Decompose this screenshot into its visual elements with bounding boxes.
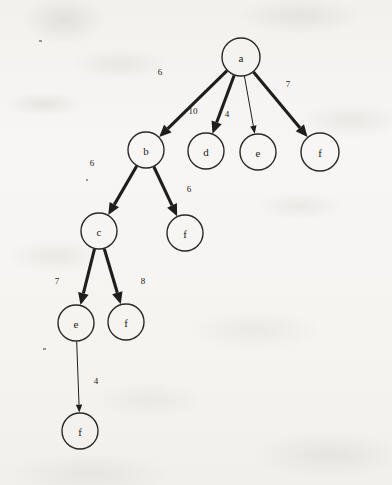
edge-e-to-f xyxy=(76,341,82,412)
edge-b-to-f xyxy=(154,167,177,217)
node-f[interactable]: f xyxy=(62,413,98,449)
edge-weight-c-e: 7 xyxy=(55,276,60,286)
scan-speck xyxy=(39,40,42,42)
weight-labels-layer: 6104766784 xyxy=(55,67,291,386)
edge-weight-a-f: 7 xyxy=(286,79,291,89)
node-e[interactable]: e xyxy=(240,134,276,170)
node-f[interactable]: f xyxy=(108,304,144,340)
arrowhead-icon xyxy=(78,292,88,305)
node-label: f xyxy=(318,147,322,159)
edge-a-to-f xyxy=(253,72,307,137)
node-label: f xyxy=(183,228,187,240)
edges-layer xyxy=(76,71,308,413)
edge-b-to-c xyxy=(108,166,136,215)
scan-speck xyxy=(86,179,88,181)
edge-weight-e-f: 4 xyxy=(94,376,99,386)
arrowhead-icon xyxy=(112,291,122,304)
node-label: c xyxy=(97,226,102,238)
edge-weight-c-f: 8 xyxy=(141,276,146,286)
node-a[interactable]: a xyxy=(222,38,260,76)
edge-c-to-e xyxy=(78,249,94,305)
node-d[interactable]: d xyxy=(188,133,224,169)
node-f[interactable]: f xyxy=(167,215,203,251)
edge-weight-b-f: 6 xyxy=(187,184,192,194)
edge-weight-a-b: 6 xyxy=(158,67,163,77)
node-label: e xyxy=(74,318,79,330)
node-label: a xyxy=(239,52,244,64)
node-f[interactable]: f xyxy=(301,133,339,171)
edge-weight-a-e: 4 xyxy=(225,109,230,119)
diagram-page: abdefcfeff 6104766784 xyxy=(0,0,392,485)
node-label: b xyxy=(143,145,149,157)
node-label: e xyxy=(256,147,261,159)
node-label: f xyxy=(78,426,82,438)
scan-speck xyxy=(43,348,46,350)
edge-c-to-f xyxy=(104,249,122,305)
edge-weight-a-d: 10 xyxy=(189,106,199,116)
arrowhead-icon xyxy=(76,404,82,412)
arrowhead-icon xyxy=(212,121,222,134)
graph-canvas: abdefcfeff 6104766784 xyxy=(0,0,392,485)
node-e[interactable]: e xyxy=(58,305,94,341)
arrowhead-icon xyxy=(250,125,256,133)
edge-a-to-e xyxy=(244,76,256,134)
node-b[interactable]: b xyxy=(128,132,164,168)
node-c[interactable]: c xyxy=(81,213,117,249)
edge-weight-b-c: 6 xyxy=(90,158,95,168)
node-label: d xyxy=(203,146,209,158)
node-label: f xyxy=(124,317,128,329)
